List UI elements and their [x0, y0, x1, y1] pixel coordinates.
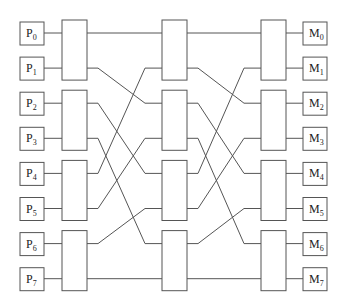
shuffle-link [187, 209, 261, 244]
switch-box [62, 231, 87, 291]
interconnection-network-diagram: P0P1P2P3P4P5P6P7 M0M1M2M3M4M5M6M7 [0, 0, 345, 306]
switch-box [162, 231, 187, 291]
switch-box [62, 160, 87, 220]
shuffle-link [87, 68, 162, 103]
processor-node: P1 [20, 57, 44, 80]
shuffle-link [187, 138, 261, 243]
shuffle-link [87, 209, 162, 244]
switch-box [261, 20, 286, 80]
switch-box [261, 160, 286, 220]
shuffle-link [187, 68, 261, 173]
memory-node: M7 [303, 268, 327, 291]
shuffle-link [87, 68, 162, 173]
shuffle-link [87, 138, 162, 243]
shuffle-link [187, 68, 261, 103]
memory-node: M1 [303, 57, 327, 80]
switch-box [261, 90, 286, 150]
switch-box [62, 90, 87, 150]
memory-node: M0 [303, 22, 327, 45]
processor-node: P4 [20, 162, 44, 185]
switch-box [162, 90, 187, 150]
processors-layer: P0P1P2P3P4P5P6P7 [20, 22, 44, 291]
switch-box [62, 20, 87, 80]
processor-node: P6 [20, 233, 44, 256]
memories-layer: M0M1M2M3M4M5M6M7 [303, 22, 327, 291]
switch-box [162, 20, 187, 80]
switches-layer [62, 20, 286, 291]
processor-node: P3 [20, 127, 44, 150]
memory-node: M3 [303, 127, 327, 150]
memory-node: M5 [303, 198, 327, 221]
memory-node: M6 [303, 233, 327, 256]
switch-box [162, 160, 187, 220]
memory-node: M2 [303, 92, 327, 115]
processor-node: P5 [20, 198, 44, 221]
processor-node: P7 [20, 268, 44, 291]
processor-node: P0 [20, 22, 44, 45]
processor-node: P2 [20, 92, 44, 115]
memory-node: M4 [303, 162, 327, 185]
switch-box [261, 231, 286, 291]
